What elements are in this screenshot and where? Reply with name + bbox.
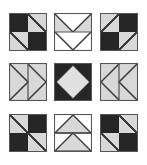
quilt-block-double-v-notch-down — [54, 13, 92, 51]
quilt-block-four-patch-diagonal-black-corners — [9, 13, 47, 51]
quilt-block-double-peak-up — [54, 114, 92, 152]
quilt-cell-1 — [6, 7, 50, 57]
quilt-block-grid — [0, 0, 147, 165]
quilt-cell-6 — [97, 58, 141, 108]
quilt-block-four-patch-diagonal-light-corners — [100, 13, 138, 51]
quilt-block-double-arrow-left — [100, 63, 138, 101]
quilt-block-four-patch-diagonal-black-corners-repeat — [100, 114, 138, 152]
quilt-cell-3 — [97, 7, 141, 57]
quilt-cell-7 — [6, 108, 50, 158]
quilt-pattern-figure — [0, 0, 147, 165]
quilt-cell-2 — [51, 7, 95, 57]
quilt-block-diamond-in-square — [54, 63, 92, 101]
quilt-cell-4 — [6, 58, 50, 108]
quilt-cell-9 — [97, 108, 141, 158]
quilt-block-double-arrow-right — [9, 63, 47, 101]
quilt-block-four-patch-diagonal-light-corners-repeat — [9, 114, 47, 152]
quilt-cell-8 — [51, 108, 95, 158]
quilt-cell-5 — [51, 58, 95, 108]
